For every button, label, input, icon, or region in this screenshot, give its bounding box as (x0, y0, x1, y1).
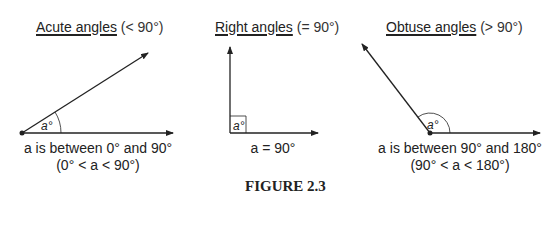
angle-label: a° (41, 119, 53, 133)
angle-label: a° (233, 119, 245, 133)
angle-arc (55, 112, 61, 133)
right-angle-diagram: a° (230, 47, 318, 133)
acute-caption-line1: a is between 0° and 90° (0, 140, 196, 156)
obtuse-caption-line1: a is between 90° and 180° (365, 140, 555, 156)
angle-label: a° (427, 118, 439, 132)
figure-caption: FIGURE 2.3 (245, 178, 326, 195)
vertex-dot (20, 131, 25, 136)
right-caption: a = 90° (218, 140, 328, 156)
acute-angle-diagram: a° (20, 53, 174, 136)
obtuse-caption-line2: (90° < a < 180°) (365, 157, 555, 173)
obtuse-angle-diagram: a° (362, 44, 540, 136)
acute-caption-line2: (0° < a < 90°) (0, 157, 196, 173)
